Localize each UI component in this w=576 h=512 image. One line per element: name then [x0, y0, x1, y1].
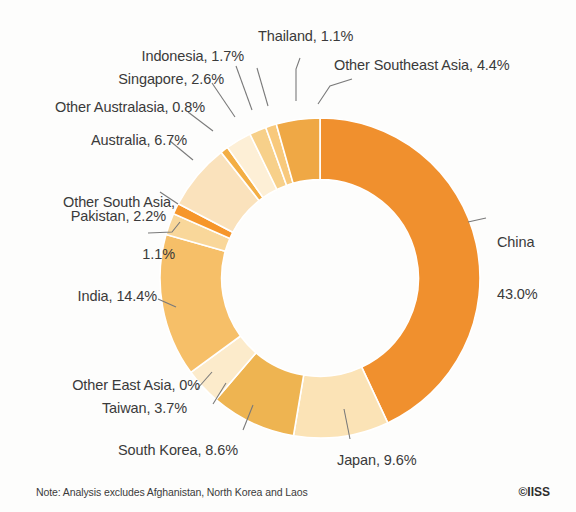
donut-slices	[160, 118, 480, 438]
label-japan: Japan, 9.6%	[337, 452, 417, 469]
label-india: India, 14.4%	[78, 288, 157, 305]
label-other-south-asia: Other South Asia, 1.1%	[25, 160, 175, 297]
donut-chart: China 43.0% Thailand, 1.1% Other Southea…	[0, 0, 576, 470]
label-china: China 43.0%	[497, 200, 538, 337]
label-china-name: China	[497, 234, 538, 251]
label-south-korea: South Korea, 8.6%	[118, 442, 238, 459]
label-pakistan: Pakistan, 2.2%	[71, 208, 166, 225]
label-other-australasia: Other Australasia, 0.8%	[55, 99, 205, 116]
label-taiwan: Taiwan, 3.7%	[102, 400, 187, 417]
chart-page: China 43.0% Thailand, 1.1% Other Southea…	[0, 0, 576, 512]
label-thailand: Thailand, 1.1%	[258, 28, 353, 45]
label-other-southeast-asia: Other Southeast Asia, 4.4%	[334, 57, 510, 74]
label-indonesia: Indonesia, 1.7%	[142, 48, 245, 65]
footer-note: Note: Analysis excludes Afghanistan, Nor…	[36, 486, 308, 498]
label-other-south-asia-value: 1.1%	[25, 246, 175, 263]
label-singapore: Singapore, 2.6%	[118, 71, 224, 88]
copyright-label: ©IISS	[518, 485, 550, 499]
label-australia: Australia, 6.7%	[91, 132, 187, 149]
label-china-value: 43.0%	[497, 286, 538, 303]
label-other-east-asia: Other East Asia, 0%	[72, 377, 200, 394]
